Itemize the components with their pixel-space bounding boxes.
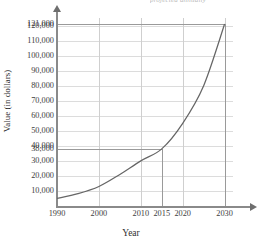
gridline-horizontal <box>57 191 233 192</box>
gridline-vertical <box>141 18 142 206</box>
reference-line-vertical <box>225 24 226 206</box>
gridline-horizontal <box>57 176 233 177</box>
y-tick-label: 120,000 <box>27 22 54 30</box>
clipped-header-text: projected annually <box>150 0 262 4</box>
plot-area <box>57 18 233 206</box>
reference-line-vertical <box>162 149 163 206</box>
gridline-horizontal <box>57 116 233 117</box>
gridline-horizontal <box>57 56 233 57</box>
gridline-horizontal <box>57 26 233 27</box>
gridline-vertical <box>99 18 100 206</box>
gridline-vertical <box>183 18 184 206</box>
y-tick-label: 20,000 <box>31 172 54 180</box>
gridline-horizontal <box>57 86 233 87</box>
gridline-horizontal <box>57 146 233 147</box>
y-tick-label: 70,000 <box>31 97 54 105</box>
y-tick-label: 38,000 <box>31 145 54 153</box>
reference-line-horizontal <box>57 149 162 150</box>
x-tick-label: 2000 <box>86 209 112 218</box>
y-tick-label: 100,000 <box>27 52 54 60</box>
y-axis-title: Value (in dollars) <box>2 53 12 149</box>
y-tick-label: 60,000 <box>31 112 54 120</box>
y-tick-label: 30,000 <box>31 157 54 165</box>
gridline-horizontal <box>57 161 233 162</box>
reference-line-horizontal <box>57 24 225 25</box>
y-tick-label: 10,000 <box>31 187 54 195</box>
y-tick-label: 110,000 <box>27 37 54 45</box>
x-tick-label: 1990 <box>44 209 70 218</box>
y-axis-line <box>56 10 58 208</box>
y-axis-arrow-icon <box>53 5 61 12</box>
gridline-horizontal <box>57 41 233 42</box>
gridline-horizontal <box>57 101 233 102</box>
x-axis-arrow-icon <box>250 203 257 211</box>
y-tick-label: 50,000 <box>31 127 54 135</box>
y-tick-label: 80,000 <box>31 82 54 90</box>
gridline-horizontal <box>57 71 233 72</box>
y-tick-label: 90,000 <box>31 67 54 75</box>
gridline-horizontal <box>57 131 233 132</box>
x-tick-label: 2020 <box>170 209 196 218</box>
x-tick-label: 2030 <box>212 209 238 218</box>
x-axis-title: Year <box>0 228 262 238</box>
exponential-growth-chart: projected annually 121,000120,000110,000… <box>0 0 262 247</box>
x-axis-line <box>57 206 251 208</box>
